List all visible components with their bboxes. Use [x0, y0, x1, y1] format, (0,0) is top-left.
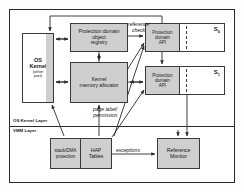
edge-stackdma-kernel — [52, 105, 64, 136]
os-kernel-sub2: part) — [34, 74, 42, 79]
layer-divider — [9, 126, 235, 127]
page-label-line2: permission — [93, 113, 117, 119]
diagram-canvas: OS Kernel Layer VMM Layer OS Kernel (oth… — [0, 0, 244, 192]
node-subject-0[interactable]: Protection domain API S0 — [145, 23, 225, 52]
stackdma-line2: protection — [55, 154, 77, 159]
subject-1-label: S1 — [214, 69, 220, 77]
refmon-line2: Monitor — [167, 154, 190, 160]
edge-label-exceptions: exceptions — [116, 148, 140, 154]
node-protection-domain-api-1[interactable]: Protection domain API — [146, 67, 180, 94]
node-kernel-memory-allocator[interactable]: Kernel memory allocator — [70, 62, 128, 103]
stackdma-line1: stack/DMA — [55, 148, 77, 153]
subject-0-subscript: 0 — [218, 29, 220, 34]
node-stack-dma-protection[interactable]: stack/DMA protection — [50, 138, 81, 169]
subject-1-dashed-divider — [186, 69, 187, 92]
layer-label-os-kernel: OS Kernel Layer — [13, 118, 47, 123]
node-protection-domain-object-registry[interactable]: Protection domain object registry — [70, 23, 128, 52]
layer-label-vmm: VMM Layer — [13, 128, 36, 133]
subject-1-subscript: 1 — [218, 72, 220, 77]
node-hap-tables[interactable]: HAP Tables — [81, 138, 112, 169]
node-protection-domain-api-0[interactable]: Protection domain API — [146, 24, 180, 51]
ref-check-line2: check — [128, 28, 149, 34]
hap-line2: Tables — [89, 154, 104, 160]
pdo-registry-line3: registry — [79, 40, 120, 46]
api0-line3: API — [152, 40, 172, 45]
edge-label-reference-check: reference check — [128, 22, 149, 33]
api1-line3: API — [152, 83, 172, 88]
subject-0-label: S0 — [214, 26, 220, 34]
node-subject-1[interactable]: Protection domain API S1 — [145, 66, 225, 95]
os-kernel-protected-strip[interactable] — [46, 33, 54, 103]
node-reference-monitor[interactable]: Reference Monitor — [157, 138, 200, 169]
kmem-line2: memory allocator — [80, 83, 119, 89]
edge-label-page-label-permission: page label/ permission — [93, 107, 117, 118]
subject-0-dashed-divider — [186, 26, 187, 49]
